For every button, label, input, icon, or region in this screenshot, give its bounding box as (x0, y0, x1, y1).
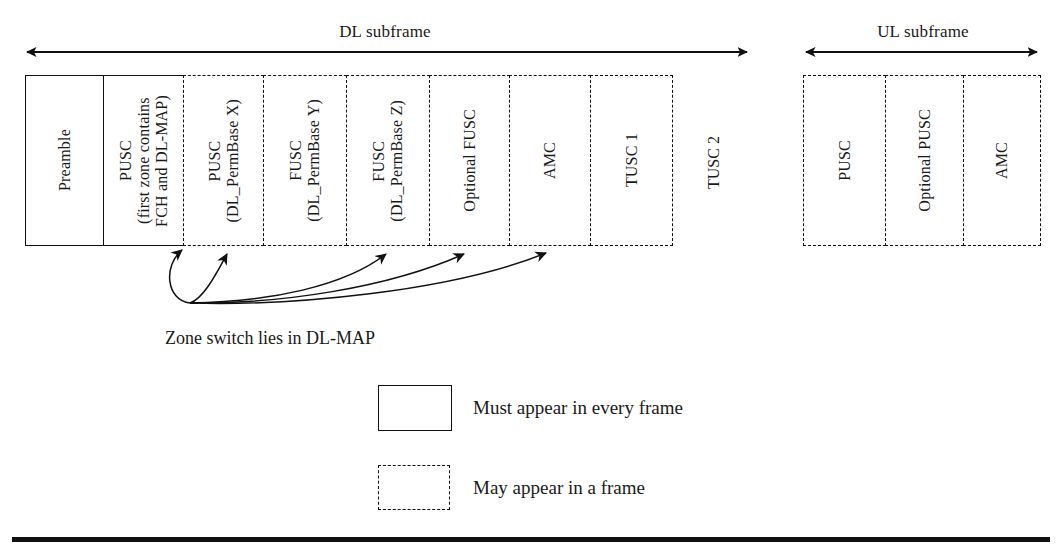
dl-zone-pusc-first[interactable]: PUSC (first zone contains FCH and DL-MAP… (103, 75, 184, 246)
dl-zone-tusc-1-label: TUSC 1 (623, 133, 641, 187)
ul-zone-optional-pusc-label: Optional PUSC (916, 109, 934, 212)
dl-zone-tusc-2-label: TUSC 2 (705, 118, 723, 208)
dl-zone-preamble-label: Preamble (56, 129, 74, 191)
dl-subframe-span-arrow (18, 40, 758, 64)
ul-zone-pusc[interactable]: PUSC (803, 75, 886, 246)
dl-zone-preamble[interactable]: Preamble (25, 75, 104, 246)
dl-zone-pusc-first-label: PUSC (first zone contains FCH and DL-MAP… (117, 95, 171, 227)
legend-swatch-must-appear (378, 385, 452, 431)
figure-canvas: DL subframe UL subframe Preamble PUSC (f… (0, 0, 1062, 554)
ul-zone-pusc-label: PUSC (836, 140, 854, 181)
legend-text-may-appear: May appear in a frame (473, 477, 645, 499)
dl-zone-pusc-permbase-x[interactable]: PUSC (DL_PermBase X) (183, 75, 264, 246)
dl-zone-fusc-permbase-y-label: FUSC (DL_PermBase Y) (287, 99, 323, 222)
ul-zone-amc[interactable]: AMC (963, 75, 1041, 246)
dl-zone-pusc-permbase-x-label: PUSC (DL_PermBase X) (206, 99, 242, 222)
dl-zone-optional-fusc[interactable]: Optional FUSC (429, 75, 510, 246)
dl-zone-amc-label: AMC (541, 142, 559, 179)
footer-rule (12, 537, 1050, 542)
legend-swatch-may-appear (378, 465, 450, 510)
dl-zone-amc[interactable]: AMC (509, 75, 591, 246)
zone-switch-note: Zone switch lies in DL-MAP (165, 328, 375, 349)
legend-text-must-appear: Must appear in every frame (473, 397, 683, 419)
dl-subframe-zone-row: Preamble PUSC (first zone contains FCH a… (25, 75, 673, 246)
dl-zone-fusc-permbase-z[interactable]: FUSC (DL_PermBase Z) (346, 75, 430, 246)
dl-zone-fusc-permbase-z-label: FUSC (DL_PermBase Z) (370, 100, 406, 222)
zone-switch-arrows (120, 240, 540, 330)
ul-subframe-zone-row: PUSC Optional PUSC AMC (803, 75, 1041, 246)
dl-subframe-span-label: DL subframe (250, 22, 520, 42)
ul-subframe-span-label: UL subframe (803, 22, 1043, 42)
ul-zone-optional-pusc[interactable]: Optional PUSC (885, 75, 964, 246)
ul-zone-amc-label: AMC (993, 142, 1011, 179)
dl-zone-tusc-1[interactable]: TUSC 1 (590, 75, 673, 246)
ul-subframe-span-arrow (797, 40, 1047, 64)
dl-zone-optional-fusc-label: Optional FUSC (461, 109, 479, 212)
dl-zone-fusc-permbase-y[interactable]: FUSC (DL_PermBase Y) (263, 75, 347, 246)
